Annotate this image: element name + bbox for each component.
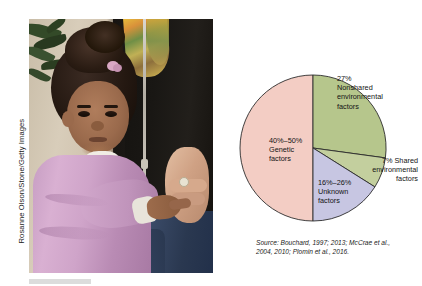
label-shared-line2: environmental xyxy=(328,165,418,174)
child-ear xyxy=(62,111,74,127)
photo-credit-container: Rosanne Olson/Stone/Getty Images xyxy=(8,0,22,254)
label-genetic-line2: Genetic xyxy=(269,145,302,154)
label-genetic-value: 40%–50% xyxy=(269,136,302,145)
child-eyebrow-left xyxy=(77,105,91,108)
hair-clip-detail xyxy=(113,64,122,72)
label-unknown-value: 16%–26% xyxy=(318,178,351,187)
label-unknown: 16%–26% Unknown factors xyxy=(318,178,351,206)
label-nonshared-line3: environmental xyxy=(337,92,383,101)
figure-root: Rosanne Olson/Stone/Getty Images 40%–50%… xyxy=(0,0,422,286)
label-genetic-line3: factors xyxy=(269,154,302,163)
child-eyebrow-right xyxy=(104,105,118,108)
child-eye-right xyxy=(105,111,117,117)
label-nonshared-environmental: 27% Nonshared environmental factors xyxy=(337,74,383,111)
label-nonshared-line4: factors xyxy=(337,102,383,111)
child-nose xyxy=(91,121,104,131)
child-eye-left xyxy=(78,111,90,117)
label-nonshared-line2: Nonshared xyxy=(337,83,383,92)
label-shared-value: 7% Shared xyxy=(328,156,418,165)
adult-ring xyxy=(179,177,189,187)
label-unknown-line2: Unknown xyxy=(318,187,351,196)
label-nonshared-value: 27% xyxy=(337,74,383,83)
source-note: Source: Bouchard, 1997; 2013; McCrae et … xyxy=(256,238,408,256)
label-unknown-line3: factors xyxy=(318,196,351,205)
child-hair-puff-top xyxy=(85,21,125,53)
pie-chart: 40%–50% Genetic factors 27% Nonshared en… xyxy=(236,52,396,252)
bottom-divider xyxy=(29,279,91,284)
zipper-pull xyxy=(141,159,148,169)
label-genetic: 40%–50% Genetic factors xyxy=(269,136,302,164)
child-mouth xyxy=(89,137,107,142)
photo-credit: Rosanne Olson/Stone/Getty Images xyxy=(17,8,26,244)
photo xyxy=(29,19,213,273)
